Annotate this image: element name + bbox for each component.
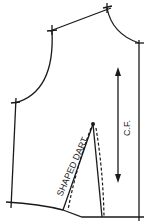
side-seam — [11, 98, 16, 208]
waistline — [6, 202, 144, 217]
neckline — [107, 8, 139, 43]
cf-label: C.F. — [122, 120, 132, 136]
pattern-drawing: C.F. SHAPED DART — [0, 0, 145, 224]
dart-label: SHAPED DART — [55, 135, 90, 198]
shoulder-line — [50, 8, 111, 31]
arrow-down-icon — [115, 174, 121, 183]
arrow-up-icon — [115, 67, 121, 76]
armhole — [15, 31, 52, 103]
